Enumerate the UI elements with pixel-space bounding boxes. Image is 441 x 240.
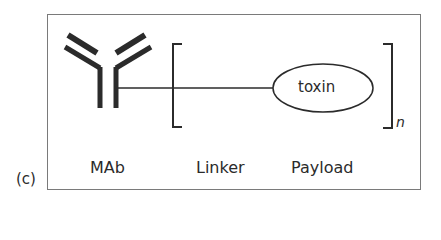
repeat-count-label: n [396,114,405,130]
left-bracket [173,44,182,127]
right-bracket [383,44,392,128]
linker-label: Linker [196,158,245,177]
mab-label: MAb [90,158,125,177]
antibody-icon [65,35,151,108]
panel-label: (c) [16,170,36,188]
toxin-label: toxin [298,78,335,96]
payload-label: Payload [291,158,353,177]
